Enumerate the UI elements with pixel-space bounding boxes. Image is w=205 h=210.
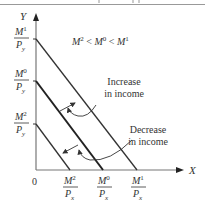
callout-curve bbox=[68, 105, 96, 116]
x-intercept-label-m1: M1 Px bbox=[131, 174, 146, 202]
origin-label: 0 bbox=[32, 176, 37, 187]
svg-text:M1: M1 bbox=[131, 174, 144, 186]
y-intercept-label-m1: M1 Py bbox=[14, 25, 29, 53]
svg-text:Px: Px bbox=[64, 188, 75, 202]
svg-text:Px: Px bbox=[98, 188, 109, 202]
svg-text:Py: Py bbox=[15, 124, 26, 138]
y-intercept-label-m2: M2 Py bbox=[14, 110, 29, 138]
increase-income-annotation: Increase in income bbox=[60, 76, 144, 116]
svg-text:Decrease: Decrease bbox=[130, 124, 167, 135]
svg-text:M2: M2 bbox=[63, 174, 76, 186]
y-intercept-label-m0: M0 Py bbox=[14, 67, 29, 95]
x-intercept-label-m2: M2 Px bbox=[63, 174, 78, 202]
budget-line-m1 bbox=[36, 39, 137, 170]
income-inequality: M2 < M0 < M1 bbox=[71, 35, 129, 47]
svg-text:Py: Py bbox=[15, 39, 26, 53]
budget-line-m2 bbox=[36, 124, 70, 170]
budget-line-m0 bbox=[36, 81, 103, 170]
svg-text:in income: in income bbox=[104, 88, 144, 99]
svg-text:Px: Px bbox=[132, 188, 143, 202]
x-axis-arrowhead-icon bbox=[176, 167, 184, 173]
svg-text:Py: Py bbox=[15, 81, 26, 95]
svg-text:M1: M1 bbox=[14, 25, 27, 37]
svg-text:M0: M0 bbox=[14, 67, 27, 79]
x-axis-label: X bbox=[188, 164, 197, 176]
shift-left-arrow-icon bbox=[63, 145, 78, 153]
x-intercept-label-m0: M0 Px bbox=[97, 174, 112, 202]
svg-text:M2: M2 bbox=[14, 110, 27, 122]
svg-text:in income: in income bbox=[128, 136, 168, 147]
shift-right-arrow-icon bbox=[60, 103, 75, 111]
y-axis-label: Y bbox=[20, 10, 28, 22]
budget-line-diagram: Y X 0 M2 < M0 < M1 M1 Py M0 Py M2 Py M2 … bbox=[0, 0, 205, 210]
svg-text:Increase: Increase bbox=[107, 76, 141, 87]
y-axis-arrowhead-icon bbox=[33, 13, 39, 21]
svg-text:M0: M0 bbox=[97, 174, 110, 186]
